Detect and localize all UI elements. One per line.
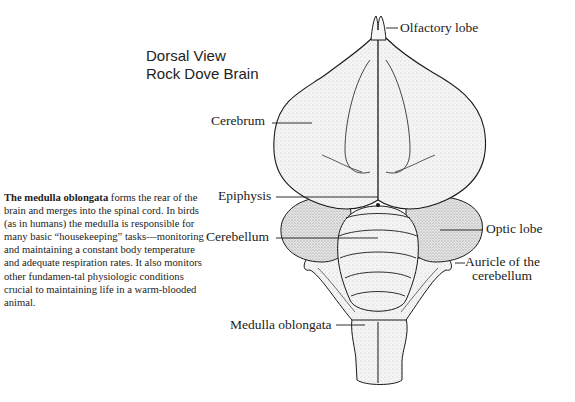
cerebellum-shape — [338, 203, 419, 311]
label-medulla-oblongata: Medulla oblongata — [230, 317, 332, 332]
brain-illustration — [0, 0, 575, 402]
label-optic-lobe: Optic lobe — [486, 221, 543, 236]
label-epiphysis: Epiphysis — [218, 188, 271, 203]
label-auricle-line2: cerebellum — [472, 268, 532, 283]
cerebrum-shape — [274, 38, 486, 209]
label-olfactory-lobe: Olfactory lobe — [400, 20, 478, 35]
label-cerebrum: Cerebrum — [211, 113, 265, 128]
medulla-oblongata-shape — [352, 318, 408, 385]
olfactory-lobes — [371, 16, 386, 40]
label-auricle-line1: Auricle of the — [465, 254, 540, 269]
label-cerebellum: Cerebellum — [206, 229, 269, 244]
